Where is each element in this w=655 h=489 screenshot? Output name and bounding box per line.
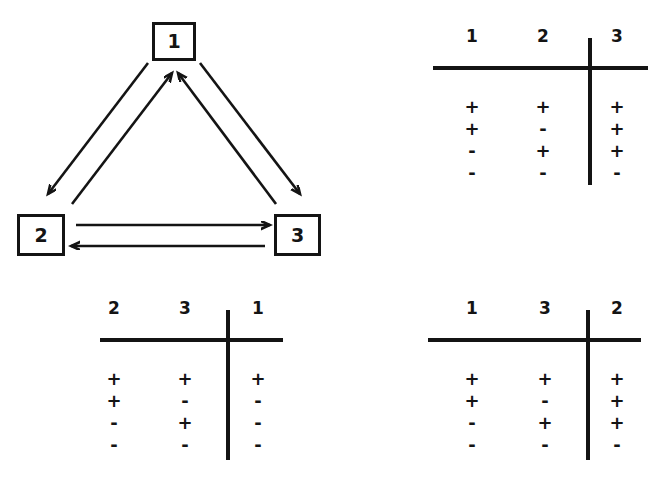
truth-table-header-col-3: 1 xyxy=(252,300,264,317)
truth-table-header-row: 2 3 1 xyxy=(95,300,295,330)
truth-table-header-row: 1 2 3 xyxy=(425,28,655,58)
diagram-node-1-label: 1 xyxy=(167,32,180,51)
table-cell: - xyxy=(181,392,188,410)
table-cell: + xyxy=(464,120,479,138)
table-cell: + xyxy=(537,414,552,432)
truth-table-header-col-3: 2 xyxy=(611,300,623,317)
table-cell: - xyxy=(468,142,475,160)
truth-table-output-1: 2 3 1 + + + + - - - + - - - - xyxy=(95,300,295,470)
diagram-node-2[interactable]: 2 xyxy=(17,214,65,256)
truth-table-header-col-1: 1 xyxy=(466,28,478,45)
diagram-node-2-label: 2 xyxy=(34,226,47,245)
diagram-node-1[interactable]: 1 xyxy=(152,22,196,61)
table-cell: - xyxy=(539,120,546,138)
truth-table-output-divider xyxy=(588,38,592,185)
table-cell: - xyxy=(468,436,475,454)
truth-table-output-divider xyxy=(226,310,230,460)
table-cell: - xyxy=(539,164,546,182)
table-cell: + xyxy=(464,98,479,116)
table-cell: - xyxy=(110,414,117,432)
table-cell: - xyxy=(541,392,548,410)
arrow-3-to-1 xyxy=(178,73,276,204)
truth-table-output-divider xyxy=(586,310,590,460)
table-cell: + xyxy=(609,98,624,116)
truth-table-header-rule xyxy=(433,66,648,70)
truth-table-header-col-3: 3 xyxy=(611,28,623,45)
table-cell: - xyxy=(181,436,188,454)
diagram-node-3[interactable]: 3 xyxy=(274,214,321,256)
table-cell: + xyxy=(537,370,552,388)
table-cell: + xyxy=(609,414,624,432)
table-cell: - xyxy=(468,164,475,182)
truth-table-output-3: 1 2 3 + + + + - + - + + - - - xyxy=(425,28,655,198)
table-cell: + xyxy=(535,142,550,160)
table-cell: - xyxy=(613,164,620,182)
truth-table-header-rule xyxy=(428,338,641,342)
table-cell: + xyxy=(609,120,624,138)
table-cell: + xyxy=(464,392,479,410)
table-cell: - xyxy=(613,436,620,454)
truth-table-header-rule xyxy=(100,338,283,342)
arrow-2-to-1 xyxy=(72,73,172,204)
table-cell: + xyxy=(609,142,624,160)
truth-table-header-col-2: 2 xyxy=(537,28,549,45)
table-cell: + xyxy=(177,370,192,388)
arrow-1-to-3 xyxy=(200,63,300,194)
truth-table-header-col-1: 1 xyxy=(466,300,478,317)
table-cell: - xyxy=(254,436,261,454)
truth-table-header-col-1: 2 xyxy=(108,300,120,317)
diagram-node-3-label: 3 xyxy=(291,226,304,245)
truth-table-header-row: 1 3 2 xyxy=(420,300,650,330)
table-cell: + xyxy=(106,370,121,388)
table-cell: + xyxy=(106,392,121,410)
table-cell: + xyxy=(609,370,624,388)
truth-table-header-col-2: 3 xyxy=(539,300,551,317)
figure-canvas: 1 2 3 1 2 3 + + + + - + - + + - - - 2 3 … xyxy=(0,0,655,489)
table-cell: + xyxy=(177,414,192,432)
table-cell: + xyxy=(464,370,479,388)
table-cell: + xyxy=(250,370,265,388)
table-cell: + xyxy=(609,392,624,410)
table-cell: + xyxy=(535,98,550,116)
truth-table-header-col-2: 3 xyxy=(179,300,191,317)
table-cell: - xyxy=(110,436,117,454)
table-cell: - xyxy=(541,436,548,454)
table-cell: - xyxy=(254,414,261,432)
table-cell: - xyxy=(254,392,261,410)
arrow-1-to-2 xyxy=(48,63,148,194)
truth-table-output-2: 1 3 2 + + + + - + - + + - - - xyxy=(420,300,650,470)
table-cell: - xyxy=(468,414,475,432)
